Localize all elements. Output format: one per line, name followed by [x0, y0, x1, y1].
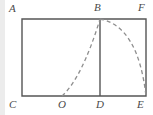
- vertex-label-d: D: [96, 99, 104, 110]
- dashed-curve-be: [100, 19, 146, 96]
- vertex-label-a: A: [9, 3, 16, 14]
- geometry-figure: A B F C O D E: [0, 0, 153, 115]
- vertex-label-b: B: [94, 2, 101, 13]
- rectangle-acef: [22, 19, 146, 96]
- geometry-canvas: [0, 0, 153, 115]
- vertex-label-f: F: [138, 2, 145, 13]
- vertex-label-e: E: [137, 99, 144, 110]
- vertex-label-o: O: [58, 99, 66, 110]
- vertex-label-c: C: [9, 99, 16, 110]
- dashed-curve-ob: [62, 19, 100, 96]
